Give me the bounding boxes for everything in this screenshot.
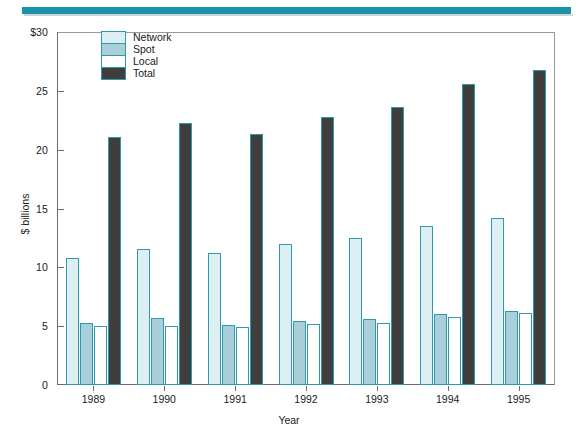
bar-spot-1994 xyxy=(434,314,447,385)
x-axis-tick-mark xyxy=(93,386,94,391)
legend-swatch-spot xyxy=(102,44,125,56)
bar-network-1989 xyxy=(66,258,79,385)
bar-spot-1993 xyxy=(363,319,376,385)
legend-label-local: Local xyxy=(133,55,172,67)
bar-local-1992 xyxy=(307,324,320,385)
legend-swatch-local xyxy=(102,56,125,68)
x-axis-tick-mark xyxy=(448,386,449,391)
y-axis-tick-label: 20 xyxy=(0,144,57,156)
bar-network-1991 xyxy=(208,253,221,385)
bar-spot-1990 xyxy=(151,318,164,385)
bar-local-1994 xyxy=(448,317,461,385)
bar-spot-1989 xyxy=(80,323,93,385)
legend-swatches xyxy=(101,31,126,80)
bar-total-1992 xyxy=(321,117,334,385)
bar-total-1989 xyxy=(108,137,121,385)
y-axis-tick-mark xyxy=(58,91,64,92)
bar-total-1995 xyxy=(533,70,546,385)
bar-network-1995 xyxy=(491,218,504,385)
bar-spot-1992 xyxy=(293,321,306,385)
y-axis-tick-mark xyxy=(58,267,64,268)
chart-legend: NetworkSpotLocalTotal xyxy=(101,31,172,80)
x-axis-tick-label: 1994 xyxy=(436,393,459,405)
y-axis-tick-label: 25 xyxy=(0,85,57,97)
legend-swatch-network xyxy=(102,32,125,44)
bar-total-1993 xyxy=(391,107,404,385)
x-axis-tick-mark xyxy=(377,386,378,391)
y-axis-tick-label: $30 xyxy=(0,26,57,38)
bar-network-1993 xyxy=(349,238,362,385)
y-axis-tick-mark xyxy=(58,209,64,210)
bar-chart: $302520151050 19891990199119921993199419… xyxy=(0,0,578,434)
y-axis-tick-mark xyxy=(58,150,64,151)
bar-total-1994 xyxy=(462,84,475,385)
bar-local-1995 xyxy=(519,313,532,385)
x-axis-tick-label: 1990 xyxy=(153,393,176,405)
x-axis-tick-mark xyxy=(306,386,307,391)
legend-label-total: Total xyxy=(133,67,172,79)
x-axis-tick-label: 1992 xyxy=(294,393,317,405)
legend-label-network: Network xyxy=(133,31,172,43)
y-axis-tick-label: 0 xyxy=(0,379,57,391)
legend-swatch-total xyxy=(102,68,125,79)
x-axis-title: Year xyxy=(0,414,578,426)
bar-local-1989 xyxy=(94,326,107,385)
legend-label-spot: Spot xyxy=(133,43,172,55)
x-axis-tick-mark xyxy=(235,386,236,391)
bar-network-1990 xyxy=(137,249,150,385)
y-axis-tick-label: 5 xyxy=(0,320,57,332)
bar-local-1991 xyxy=(236,327,249,385)
x-axis-tick-label: 1993 xyxy=(365,393,388,405)
bar-network-1992 xyxy=(279,244,292,385)
bar-spot-1991 xyxy=(222,325,235,385)
x-axis-tick-mark xyxy=(519,386,520,391)
y-axis-tick-mark xyxy=(58,326,64,327)
y-axis-title: $ billions xyxy=(19,164,31,264)
bar-network-1994 xyxy=(420,226,433,385)
bar-local-1990 xyxy=(165,326,178,385)
x-axis-tick-label: 1989 xyxy=(82,393,105,405)
x-axis-tick-label: 1995 xyxy=(507,393,530,405)
bar-total-1990 xyxy=(179,123,192,385)
bar-local-1993 xyxy=(377,323,390,385)
bar-total-1991 xyxy=(250,134,263,385)
x-axis-tick-mark xyxy=(164,386,165,391)
x-axis-tick-label: 1991 xyxy=(223,393,246,405)
bar-spot-1995 xyxy=(505,311,518,385)
legend-labels: NetworkSpotLocalTotal xyxy=(133,31,172,80)
